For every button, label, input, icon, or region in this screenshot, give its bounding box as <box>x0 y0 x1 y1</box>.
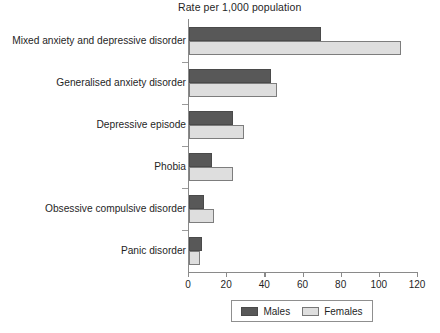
bar-females <box>189 41 401 55</box>
x-axis-tick <box>264 272 265 277</box>
legend-swatch-males <box>241 307 258 316</box>
bar-females <box>189 83 277 97</box>
legend-item: Females <box>302 306 362 317</box>
y-axis-tick <box>182 230 188 231</box>
x-axis-tick <box>226 272 227 277</box>
bar-females <box>189 209 214 223</box>
y-axis-tick <box>182 188 188 189</box>
x-axis-tick <box>341 272 342 277</box>
x-axis-tick <box>379 272 380 277</box>
bar-males <box>189 111 233 125</box>
x-axis-tick <box>188 272 189 277</box>
bar-chart: Rate per 1,000 population 02040608010012… <box>0 0 440 333</box>
y-axis-tick <box>182 104 188 105</box>
x-axis-tick <box>417 272 418 277</box>
legend-label: Females <box>324 306 362 317</box>
chart-legend: MalesFemales <box>231 300 373 322</box>
category-label: Depressive episode <box>97 119 186 130</box>
chart-title: Rate per 1,000 population <box>178 1 301 13</box>
category-label: Generalised anxiety disorder <box>56 77 186 88</box>
category-label: Panic disorder <box>121 245 186 256</box>
legend-label: Males <box>263 306 290 317</box>
legend-swatch-females <box>302 307 319 316</box>
category-label: Mixed anxiety and depressive disorder <box>12 35 186 46</box>
category-label: Obsessive compulsive disorder <box>45 203 186 214</box>
x-axis-tick-label: 20 <box>221 279 232 290</box>
bar-males <box>189 69 271 83</box>
bar-females <box>189 125 244 139</box>
y-axis-line <box>188 19 189 273</box>
bar-males <box>189 153 212 167</box>
bar-females <box>189 167 233 181</box>
bar-males <box>189 195 204 209</box>
bar-males <box>189 237 202 251</box>
x-axis-tick-label: 120 <box>409 279 426 290</box>
x-axis-tick-label: 0 <box>185 279 191 290</box>
y-axis-tick <box>182 62 188 63</box>
x-axis-tick-label: 80 <box>335 279 346 290</box>
bar-females <box>189 251 200 265</box>
bar-males <box>189 27 321 41</box>
x-axis-tick-label: 100 <box>370 279 387 290</box>
y-axis-tick <box>182 146 188 147</box>
category-label: Phobia <box>154 161 186 172</box>
x-axis-tick <box>303 272 304 277</box>
x-axis-tick-label: 60 <box>297 279 308 290</box>
legend-item: Males <box>241 306 290 317</box>
x-axis-tick-label: 40 <box>259 279 270 290</box>
